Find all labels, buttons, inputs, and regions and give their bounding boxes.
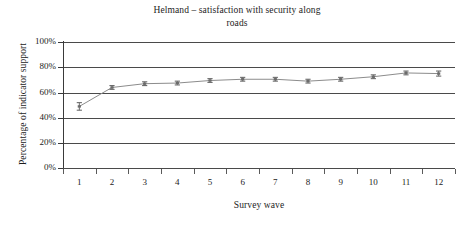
data-series-line xyxy=(0,0,472,225)
data-point-error-bar xyxy=(77,103,82,111)
chart-figure: Helmand – satisfaction with security alo… xyxy=(0,0,472,225)
x-axis-title: Survey wave xyxy=(63,200,455,210)
series-line xyxy=(79,73,438,106)
